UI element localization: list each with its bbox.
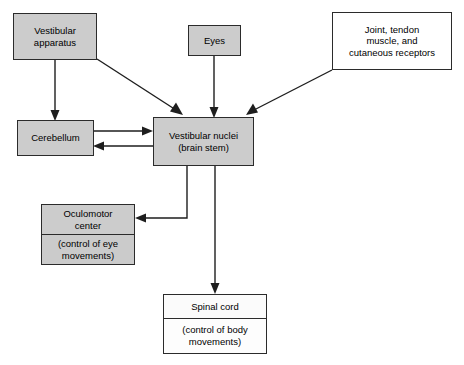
node-vestibular-nuclei-label: Vestibular nuclei (brain stem) bbox=[154, 118, 253, 165]
connector-nuclei-to-cerebellum bbox=[93, 142, 153, 151]
node-vestibular-apparatus[interactable]: Vestibular apparatus bbox=[13, 13, 97, 60]
node-oculomotor-center-subtitle: (control of eye movements) bbox=[42, 235, 134, 264]
node-vestibular-nuclei[interactable]: Vestibular nuclei (brain stem) bbox=[153, 117, 254, 166]
diagram-canvas: Vestibular apparatus Eyes Joint, tendon … bbox=[0, 0, 464, 365]
node-spinal-cord[interactable]: Spinal cord (control of body movements) bbox=[163, 294, 267, 354]
connector-nuclei-to-oculomotor bbox=[135, 166, 187, 223]
node-eyes-label: Eyes bbox=[189, 26, 240, 55]
connector-apparatus-to-cerebellum bbox=[51, 60, 60, 121]
node-joint-tendon-receptors-label: Joint, tendon muscle, and cutaneous rece… bbox=[333, 13, 451, 69]
node-eyes[interactable]: Eyes bbox=[188, 25, 241, 56]
node-spinal-cord-title: Spinal cord bbox=[164, 295, 266, 319]
connector-cerebellum-to-nuclei bbox=[93, 127, 153, 136]
node-joint-tendon-receptors[interactable]: Joint, tendon muscle, and cutaneous rece… bbox=[332, 12, 452, 70]
node-spinal-cord-subtitle: (control of body movements) bbox=[164, 319, 266, 353]
connector-receptors-to-nuclei bbox=[246, 70, 332, 115]
node-vestibular-apparatus-label: Vestibular apparatus bbox=[14, 14, 96, 59]
node-cerebellum[interactable]: Cerebellum bbox=[17, 120, 94, 156]
connector-eyes-to-nuclei bbox=[210, 55, 219, 118]
node-oculomotor-center-title: Oculomotor center bbox=[42, 205, 134, 235]
node-oculomotor-center[interactable]: Oculomotor center (control of eye moveme… bbox=[41, 204, 135, 265]
node-cerebellum-label: Cerebellum bbox=[18, 121, 93, 155]
connector-apparatus-to-nuclei bbox=[97, 59, 183, 115]
connector-nuclei-to-spinal-cord bbox=[211, 166, 220, 294]
